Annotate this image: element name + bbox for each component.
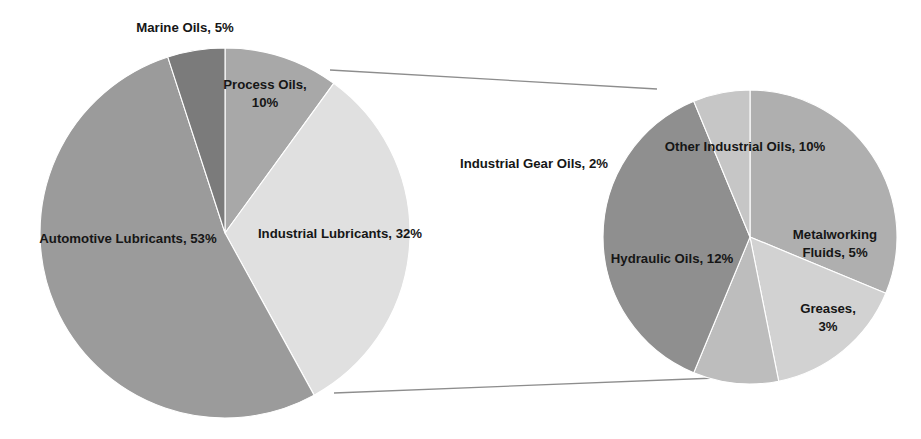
connector-bottom: [334, 378, 716, 393]
slice-label-line: Greases,: [800, 301, 856, 316]
slice-label-line: 3%: [818, 319, 837, 334]
slice-label-line: 10%: [252, 95, 279, 110]
slice-label-line: Automotive Lubricants, 53%: [39, 231, 217, 246]
slice-label-line: Industrial Lubricants, 32%: [258, 226, 422, 241]
slice-label-industrial-lubricants: Industrial Lubricants, 32%: [258, 226, 422, 241]
slice-label-industrial-gear-oils: Industrial Gear Oils, 2%: [460, 156, 608, 171]
slice-label-line: Fluids, 5%: [802, 245, 867, 260]
slice-label-automotive-lubricants: Automotive Lubricants, 53%: [39, 231, 217, 246]
pie-of-pie-chart: Process Oils,10%Industrial Lubricants, 3…: [0, 0, 921, 439]
slice-label-line: Other Industrial Oils, 10%: [665, 139, 826, 154]
slice-label-line: Hydraulic Oils, 12%: [611, 251, 734, 266]
slice-label-line: Industrial Gear Oils, 2%: [460, 156, 608, 171]
chart-canvas: Process Oils,10%Industrial Lubricants, 3…: [0, 0, 921, 439]
slice-label-marine-oils: Marine Oils, 5%: [136, 20, 234, 35]
connector-top: [330, 70, 657, 89]
slice-label-other-industrial-oils: Other Industrial Oils, 10%: [665, 139, 826, 154]
slice-label-line: Metalworking: [793, 227, 877, 242]
slice-label-hydraulic-oils: Hydraulic Oils, 12%: [611, 251, 734, 266]
slice-label-line: Marine Oils, 5%: [136, 20, 234, 35]
slice-label-line: Process Oils,: [223, 77, 307, 92]
